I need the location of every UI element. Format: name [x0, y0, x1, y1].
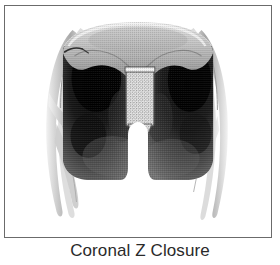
illustration-frame	[4, 5, 272, 238]
intercondylar-notch	[128, 122, 148, 182]
femur-body	[5, 6, 271, 237]
knee-coronal-illustration	[5, 6, 271, 237]
figure-caption: Coronal Z Closure	[0, 240, 280, 262]
knee-anatomy-svg	[5, 6, 271, 237]
figure-root: Coronal Z Closure	[0, 0, 280, 265]
